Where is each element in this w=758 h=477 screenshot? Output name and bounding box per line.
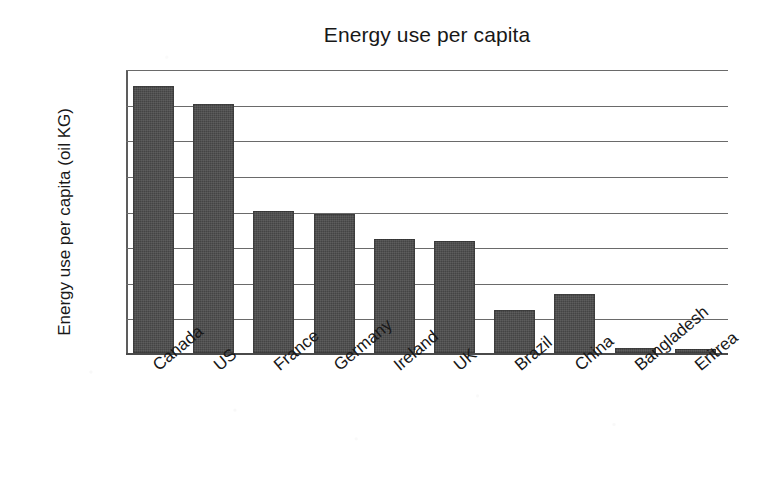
- chart-title: Energy use per capita: [126, 22, 728, 48]
- bar-chart-figure: Energy use per capita Energy use per cap…: [0, 0, 758, 477]
- plot-area: 010002000300040005000600070008000: [126, 70, 728, 355]
- bar: [193, 104, 234, 353]
- bar: [133, 86, 174, 353]
- bar: [314, 214, 355, 353]
- y-axis-title: Energy use per capita (oil KG): [55, 72, 75, 372]
- bar: [253, 211, 294, 354]
- gridline: [126, 70, 728, 71]
- bar: [434, 241, 475, 353]
